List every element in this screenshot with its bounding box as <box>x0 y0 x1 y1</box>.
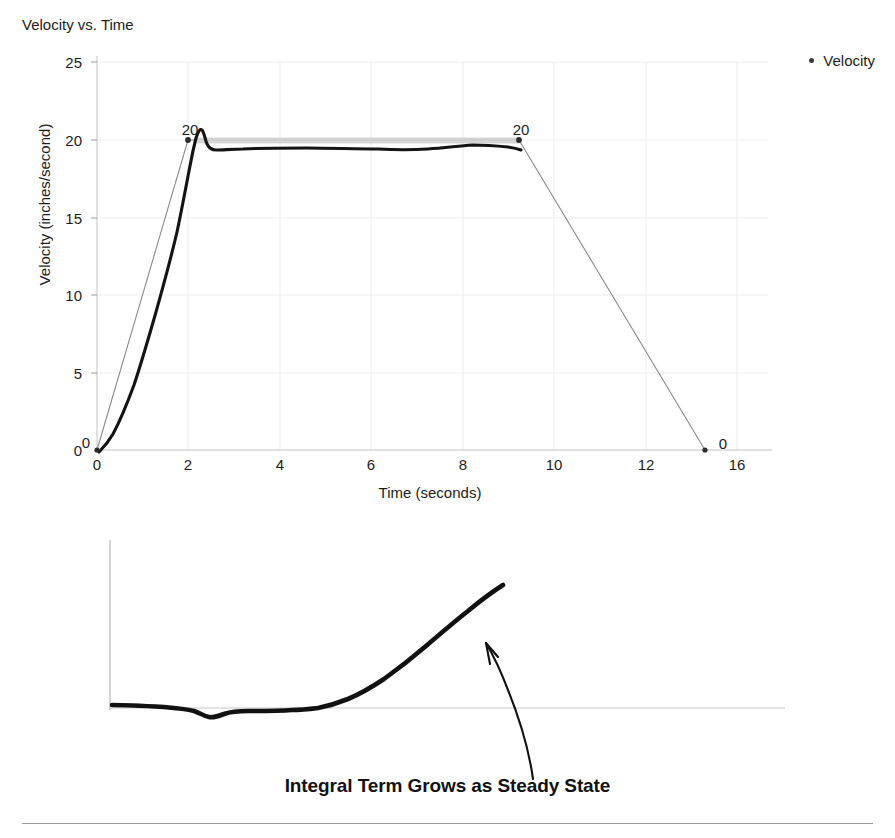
integral-plot-area <box>0 520 895 780</box>
integral-term-trace <box>112 585 503 717</box>
chart-legend: Velocity <box>809 52 875 69</box>
footer-divider <box>22 823 873 824</box>
data-label-peak-20-left: 20 <box>182 121 199 138</box>
figure-caption: Integral Term Grows as Steady State <box>0 775 895 797</box>
x-tick-12: 12 <box>626 456 666 473</box>
plateau-band <box>197 138 519 143</box>
y-tick-5: 5 <box>38 365 82 382</box>
x-tick-0: 0 <box>77 456 117 473</box>
y-tick-20: 20 <box>38 132 82 149</box>
x-tick-10: 10 <box>534 456 574 473</box>
y-tick-0: 0 <box>38 442 82 459</box>
x-tick-6: 6 <box>351 456 391 473</box>
y-tick-10: 10 <box>38 287 82 304</box>
data-label-peak-20-right: 20 <box>513 121 530 138</box>
x-tick-4: 4 <box>260 456 300 473</box>
x-tick-16: 16 <box>717 456 757 473</box>
y-tick-15: 15 <box>38 210 82 227</box>
velocity-plot-area <box>0 0 895 520</box>
legend-label-velocity: Velocity <box>823 52 875 69</box>
x-axis-title: Time (seconds) <box>0 484 860 501</box>
data-label-start-0: 0 <box>82 434 90 451</box>
y-tick-labels: 25 20 15 10 5 0 <box>10 0 82 470</box>
velocity-trace <box>99 129 521 452</box>
integral-term-chart <box>0 520 895 780</box>
legend-marker-icon <box>809 58 814 63</box>
y-tick-25: 25 <box>38 54 82 71</box>
annotation-arrow-curve <box>486 643 533 779</box>
x-tick-2: 2 <box>168 456 208 473</box>
data-label-end-0: 0 <box>719 435 727 452</box>
velocity-vs-time-chart: Velocity vs. Time Velocity Velocity (inc… <box>0 0 895 520</box>
figure-page: Velocity vs. Time Velocity Velocity (inc… <box>0 0 895 838</box>
y-axis-ticks <box>91 62 97 373</box>
x-tick-8: 8 <box>443 456 483 473</box>
